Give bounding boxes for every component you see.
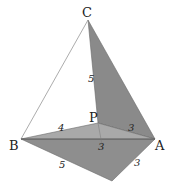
vertex-label-c: C [82, 5, 92, 20]
vertex-label-b: B [9, 138, 19, 153]
edge-label-pa: 3 [128, 122, 134, 133]
face-pca [88, 20, 155, 139]
edge-label-pc: 5 [88, 73, 94, 84]
edge-label-pd: 3 [98, 141, 104, 152]
vertex-label-a: A [154, 138, 165, 153]
edge-label-pb: 4 [57, 122, 64, 133]
edge-label-ad: 3 [134, 157, 140, 168]
tetrahedron-diagram: C P A B 5 4 3 3 5 3 [0, 0, 178, 188]
edge-bc [21, 20, 88, 139]
edge-label-bd: 5 [59, 159, 65, 170]
vertex-label-p: P [89, 110, 98, 125]
